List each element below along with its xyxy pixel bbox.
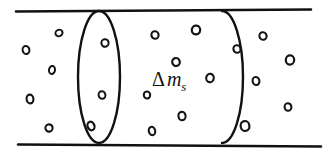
- fluid-particle: [86, 121, 96, 132]
- control-volume-figure: Δms: [0, 0, 330, 154]
- delta-mass-label: Δms: [152, 68, 186, 94]
- fluid-particle: [48, 66, 55, 75]
- control-volume-left-face-ellipse: [78, 11, 120, 143]
- control-volume-right-face-arc: [222, 11, 243, 143]
- fluid-particle: [171, 57, 180, 66]
- fluid-particle: [178, 111, 187, 121]
- fluid-particle: [285, 55, 294, 65]
- mass-subscript: s: [181, 79, 186, 94]
- fluid-particle: [151, 31, 159, 40]
- fluid-particle: [206, 73, 215, 83]
- fluid-particle: [191, 25, 200, 35]
- pipe-bottom-wall: [18, 145, 321, 147]
- fluid-particle: [98, 90, 106, 99]
- fluid-particle: [284, 103, 292, 111]
- pipe-top-wall: [16, 10, 311, 12]
- mass-symbol: m: [167, 68, 181, 90]
- fluid-particle: [44, 123, 53, 132]
- fluid-particle: [252, 76, 260, 85]
- fluid-particle: [240, 120, 250, 131]
- fluid-particle: [233, 45, 241, 54]
- fluid-particle: [259, 31, 268, 40]
- fluid-particle: [143, 91, 150, 99]
- delta-symbol: Δ: [152, 68, 165, 90]
- fluid-particle: [54, 29, 63, 38]
- fluid-particle: [101, 39, 109, 48]
- fluid-particle: [26, 94, 34, 103]
- figure-canvas: Δms: [0, 0, 330, 154]
- fluid-particle: [148, 126, 156, 136]
- fluid-particle: [22, 45, 30, 54]
